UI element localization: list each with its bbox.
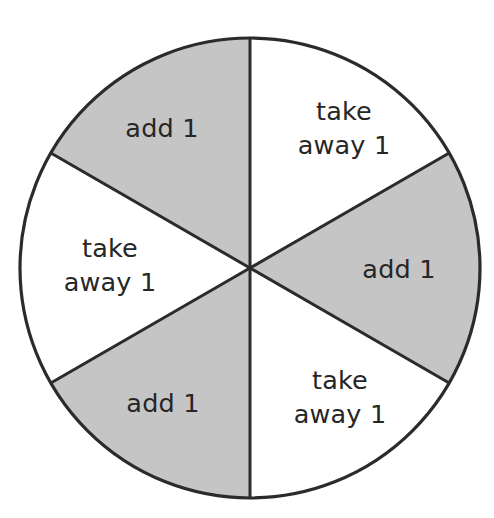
sector-label-line: add 1	[362, 254, 435, 284]
section-top-left-label: add 1	[125, 113, 198, 143]
sector-label-line: away 1	[64, 267, 157, 297]
sector-label-line: add 1	[125, 113, 198, 143]
sector-label-line: take	[316, 96, 372, 126]
section-right-label: add 1	[362, 254, 435, 284]
spinner-figure: takeaway 1add 1takeaway 1add 1takeaway 1…	[0, 0, 494, 518]
spinner-wheel-graphic: takeaway 1add 1takeaway 1add 1takeaway 1…	[0, 0, 494, 518]
sector-label-line: away 1	[298, 130, 391, 160]
sector-label-line: take	[312, 365, 368, 395]
sector-label-line: away 1	[294, 399, 387, 429]
sector-label-line: take	[82, 233, 138, 263]
sector-label-line: add 1	[126, 388, 199, 418]
section-bottom-left-label: add 1	[126, 388, 199, 418]
